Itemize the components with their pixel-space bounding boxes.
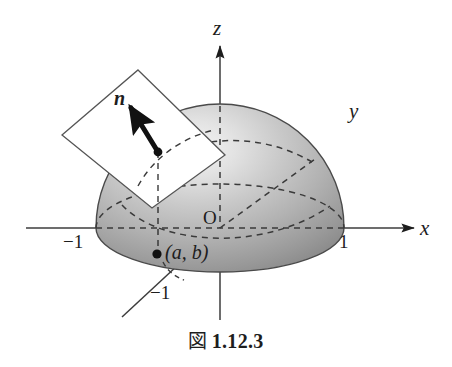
normal-vector-label: n [114, 88, 125, 108]
x-positive-tick-label: 1 [339, 232, 349, 251]
tangency-point-dot [154, 148, 163, 157]
y-negative-tick-label: −1 [150, 283, 170, 302]
z-axis-label: z [213, 18, 221, 39]
caption-number: 1.12.3 [212, 330, 264, 352]
base-point-label: (a, b) [165, 242, 208, 262]
origin-label: O [203, 208, 217, 227]
base-point-dot [152, 249, 161, 258]
figure-caption: 図1.12.3 [0, 326, 452, 353]
caption-kanji: 図 [188, 330, 207, 352]
x-axis-label: x [420, 218, 429, 239]
y-axis-label: y [349, 101, 358, 122]
figure-graphic [0, 0, 452, 367]
x-negative-tick-label: −1 [63, 232, 83, 251]
figure-container: z y x O −1 1 −1 n (a, b) 図1.12.3 [0, 0, 452, 367]
